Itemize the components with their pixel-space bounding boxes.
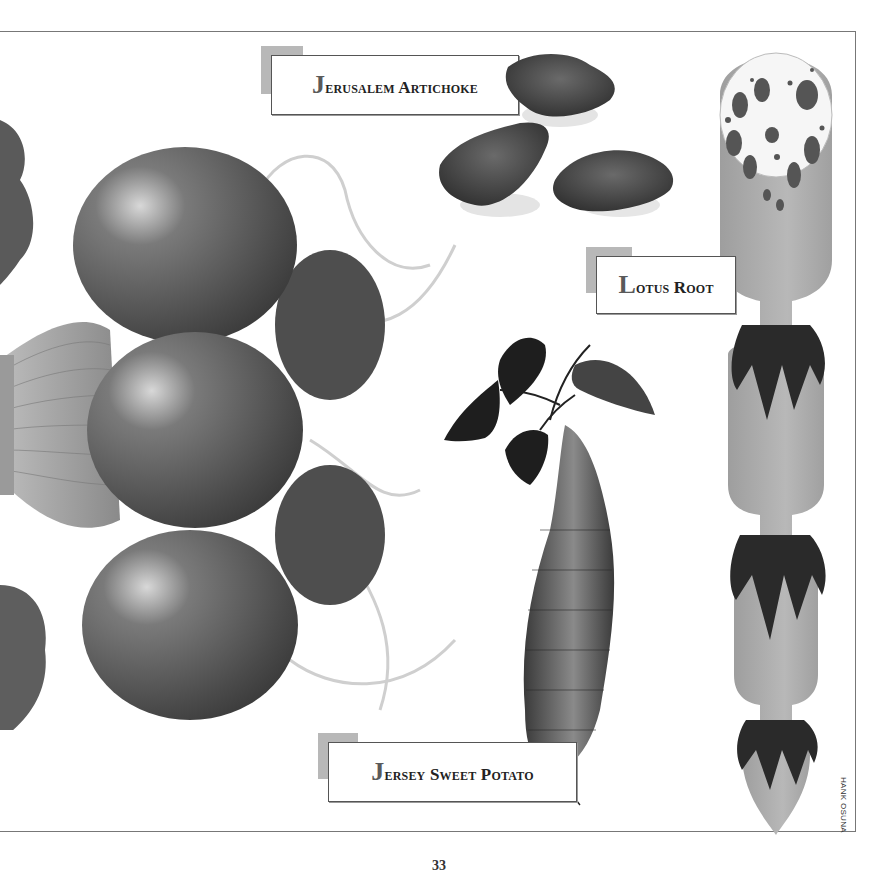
page-number: 33 <box>432 858 446 874</box>
jerusalem-artichoke-tubers <box>430 45 690 230</box>
label-jersey-sweet-potato: Jersey Sweet Potato <box>318 733 578 803</box>
radish-bunch-illustration <box>0 110 470 730</box>
artist-credit: HANK OSUNA <box>839 777 848 833</box>
label-text: Jersey Sweet Potato <box>371 757 534 787</box>
label-lotus-root: Lotus Root <box>586 247 736 315</box>
label-text: Lotus Root <box>618 270 713 300</box>
lotus-root-segments <box>712 35 842 835</box>
